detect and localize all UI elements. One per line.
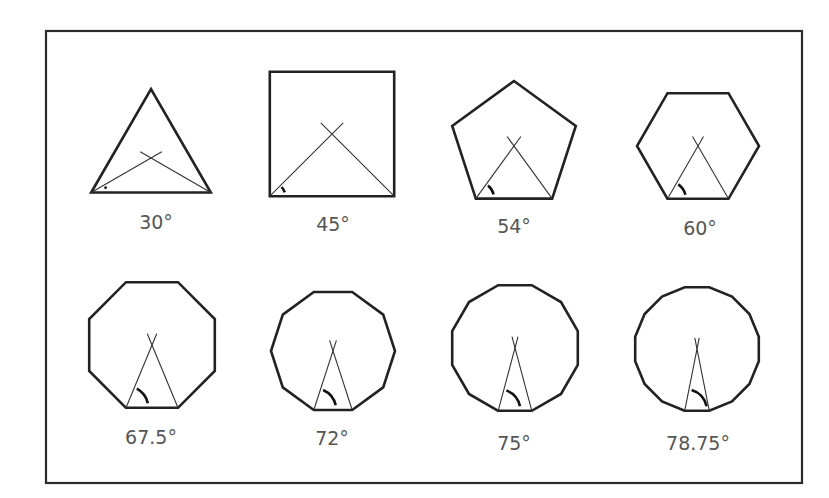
hexadecagon-center-line-right xyxy=(695,338,710,411)
pentagon-shape xyxy=(452,81,576,199)
hexagon-shape xyxy=(637,93,759,199)
hexadecagon-angle-arc xyxy=(692,390,707,406)
pentagon-angle-arc xyxy=(488,185,494,194)
pentagon-center-line-right xyxy=(507,137,552,199)
dodecagon-shape xyxy=(452,285,578,411)
square-center-line-right xyxy=(321,123,394,196)
square-shape xyxy=(270,72,394,196)
octagon-center-line-right xyxy=(147,334,178,408)
octagon-shape xyxy=(89,282,215,408)
label-pentagon: 54° xyxy=(497,215,531,237)
label-decagon: 72° xyxy=(315,427,349,449)
label-octagon: 67.5° xyxy=(125,426,177,448)
square-angle-arc xyxy=(282,187,285,192)
label-square: 45° xyxy=(316,213,350,235)
frame-border xyxy=(46,31,802,483)
diagram-canvas: 30° 45° 54° 60° 67.5° 72° 75° 78.75° xyxy=(0,0,829,498)
pentagon-outline xyxy=(452,81,576,199)
label-dodecagon: 75° xyxy=(497,432,531,454)
label-triangle: 30° xyxy=(139,211,173,233)
dodecagon-angle-arc xyxy=(506,390,520,406)
shapes-group xyxy=(89,72,759,411)
label-hexagon: 60° xyxy=(683,217,717,239)
hexagon-angle-arc xyxy=(678,184,685,194)
triangle-angle-arc xyxy=(105,187,106,189)
decagon-angle-arc xyxy=(323,390,336,405)
triangle-shape xyxy=(91,89,211,193)
dodecagon-center-line-right xyxy=(512,337,532,411)
polygon-angles-figure xyxy=(0,0,829,498)
hexagon-center-line-right xyxy=(693,137,729,199)
decagon-shape xyxy=(271,292,395,410)
label-hexadecagon: 78.75° xyxy=(666,432,730,454)
triangle-outline xyxy=(91,89,211,193)
hexadecagon-shape xyxy=(635,287,759,411)
octagon-angle-arc xyxy=(137,389,148,404)
